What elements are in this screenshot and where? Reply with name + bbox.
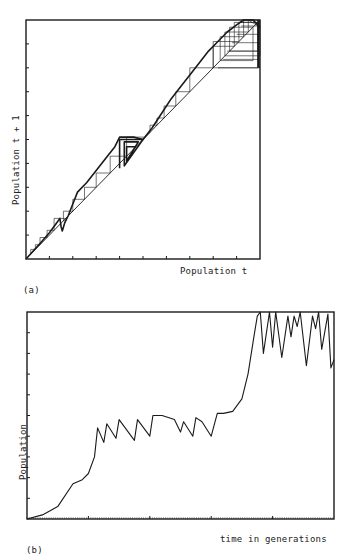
time-series-chart [0,300,353,559]
panel-b-time-series: time in generations Population (b) [0,300,353,559]
panel-label: (a) [23,285,40,295]
y-axis-label: Population t + 1 [11,115,21,205]
plot-frame [27,312,334,519]
panel-a-cobweb-plot: Population t Population t + 1 (a) [0,0,353,300]
x-axis-label: Population t [180,266,247,276]
x-axis-label: time in generations [220,534,327,544]
panel-label: (b) [26,545,43,555]
dense-orbit [120,140,143,169]
cobweb-chart [0,0,353,300]
y-axis-label: Population [18,424,28,480]
population-line [27,312,334,519]
